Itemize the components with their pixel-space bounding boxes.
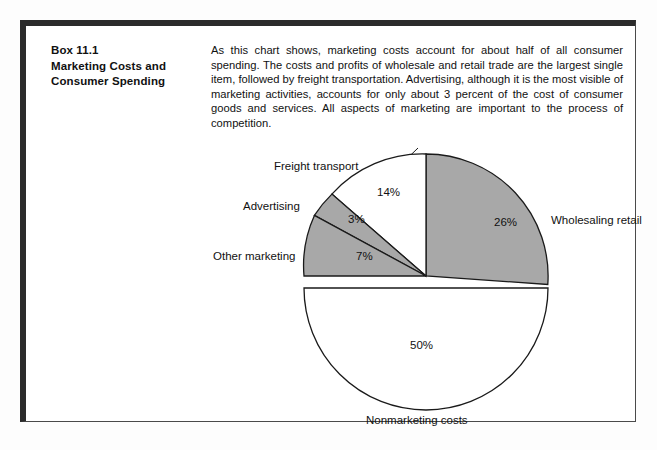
- pie-label-freight-transport: Freight transport: [274, 160, 358, 172]
- pie-label-other-marketing: Other marketing: [213, 250, 295, 262]
- box-title-line-2: Marketing Costs and: [51, 59, 226, 75]
- pie-label-wholesaling-retail: Wholesaling retail: [551, 214, 642, 226]
- pie-chart: 26% 14% 3% 7% 50% Freight transport Adve…: [26, 126, 642, 422]
- pie-label-nonmarketing-costs: Nonmarketing costs: [366, 414, 468, 426]
- pie-value-freight-transport: 14%: [377, 186, 400, 198]
- intro-paragraph: As this chart shows, marketing costs acc…: [211, 43, 623, 131]
- pie-value-nonmarketing-costs: 50%: [410, 339, 433, 351]
- pie-value-wholesaling-retail: 26%: [494, 216, 517, 228]
- feature-box: Box 11.1 Marketing Costs and Consumer Sp…: [20, 20, 636, 422]
- pie-slice-wholesaling-retail: [426, 154, 548, 285]
- box-title-line-3: Consumer Spending: [51, 74, 226, 90]
- box-title-line-1: Box 11.1: [51, 43, 226, 59]
- box-header: Box 11.1 Marketing Costs and Consumer Sp…: [26, 26, 635, 138]
- page-canvas: Box 11.1 Marketing Costs and Consumer Sp…: [0, 0, 657, 450]
- pie-value-other-marketing: 7%: [356, 250, 373, 262]
- pie-value-advertising: 3%: [348, 213, 365, 225]
- page-title: Box 11.1 Marketing Costs and Consumer Sp…: [51, 43, 226, 90]
- pie-label-advertising: Advertising: [243, 200, 300, 212]
